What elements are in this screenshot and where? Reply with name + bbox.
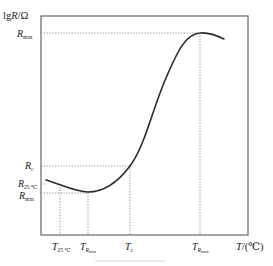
y-axis-label: lgR/Ω: [3, 10, 29, 21]
resistance-curve: [46, 33, 224, 192]
y-marker-labels: Rmax Rc R25 ℃ Rmin: [16, 28, 37, 202]
guide-lines: [41, 33, 200, 235]
label-t-25: T25 ℃: [52, 241, 71, 253]
label-r-25: R25 ℃: [17, 178, 37, 190]
faint-caption: [95, 260, 165, 262]
x-marker-labels: T25 ℃ TRmin Tc TRmax: [52, 241, 209, 254]
label-r-max: Rmax: [16, 28, 33, 40]
x-axis-label: T/(℃): [236, 241, 264, 253]
ptc-resistance-temperature-diagram: lgR/Ω Rmax Rc R25 ℃ Rmin T25 ℃ TRmin Tc …: [0, 0, 273, 266]
label-r-min: Rmin: [18, 190, 34, 202]
label-r-c: Rc: [24, 160, 34, 172]
label-t-rmax: TRmax: [192, 241, 209, 254]
label-t-rmin: TRmin: [80, 241, 97, 254]
plot-frame: [41, 16, 248, 235]
label-t-c: Tc: [125, 241, 134, 253]
